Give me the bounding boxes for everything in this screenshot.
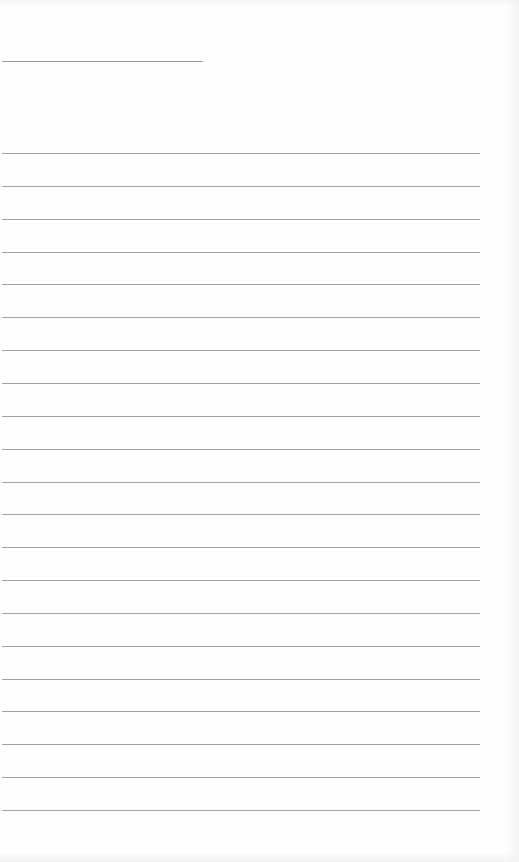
ruled-line [2,317,480,318]
ruled-line [2,482,480,483]
ruled-line [2,646,480,647]
page-bottom-edge [0,852,519,862]
name-field-line [2,61,203,62]
lined-paper-page [0,0,519,862]
ruled-line [2,547,480,548]
page-top-edge [0,0,519,6]
ruled-line [2,186,480,187]
ruled-line [2,350,480,351]
ruled-line [2,580,480,581]
ruled-line [2,219,480,220]
ruled-line [2,284,480,285]
ruled-line [2,777,480,778]
ruled-line [2,416,480,417]
ruled-line [2,383,480,384]
ruled-line [2,252,480,253]
ruled-line [2,711,480,712]
ruled-line [2,153,480,154]
ruled-line [2,514,480,515]
ruled-line [2,613,480,614]
ruled-line [2,744,480,745]
page-right-edge [507,0,519,862]
ruled-line [2,679,480,680]
ruled-line [2,810,480,811]
ruled-line [2,449,480,450]
